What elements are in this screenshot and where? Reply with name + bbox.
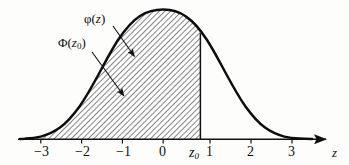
phi-symbol: φ <box>84 11 92 26</box>
normal-distribution-figure: φ(z) Φ(z0) −3 −2 −1 0 1 2 3 z0 z <box>0 0 349 165</box>
tick-label-3: 3 <box>288 145 295 159</box>
density-function-label: φ(z) <box>84 12 105 25</box>
x-axis-name: z <box>332 146 337 159</box>
big-phi-subscript: 0 <box>77 41 82 51</box>
z0-subscript: 0 <box>194 151 199 161</box>
tick-label-neg2: −2 <box>75 145 90 159</box>
tick-label-1: 1 <box>206 145 213 159</box>
distribution-plot-svg <box>0 0 349 165</box>
tick-label-0: 0 <box>159 145 166 159</box>
tick-label-2: 2 <box>247 145 254 159</box>
tick-label-neg3: −3 <box>34 145 49 159</box>
cumulative-function-label: Φ(z0) <box>58 36 86 49</box>
z0-marker-label: z0 <box>189 146 199 160</box>
big-phi-symbol: Φ <box>58 35 68 50</box>
shaded-cumulative-area <box>26 10 201 140</box>
tick-label-neg1: −1 <box>116 145 131 159</box>
